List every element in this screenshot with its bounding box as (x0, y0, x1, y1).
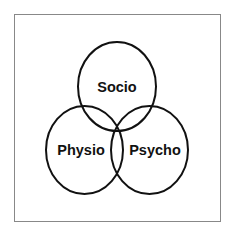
psycho-label: Psycho (129, 142, 181, 158)
physio-label: Physio (57, 142, 105, 158)
venn-diagram: Socio Physio Psycho (0, 0, 239, 237)
socio-label: Socio (97, 79, 137, 95)
